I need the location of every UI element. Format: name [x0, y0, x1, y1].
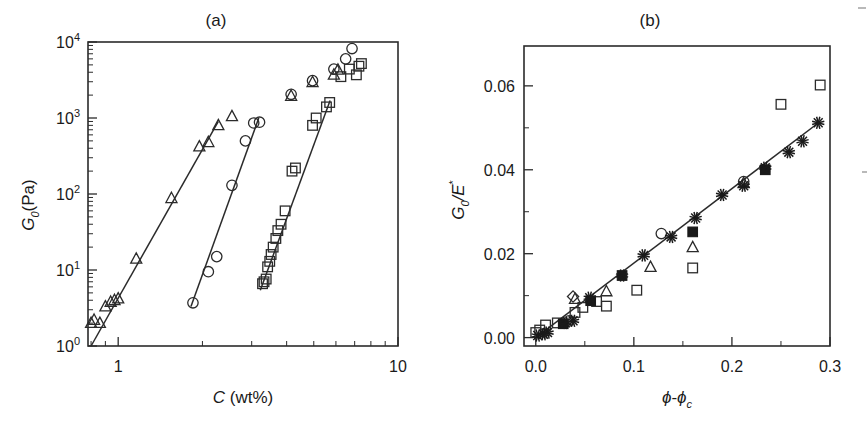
data-point: [688, 263, 698, 273]
data-point: [688, 227, 698, 237]
data-point: [812, 117, 824, 129]
data-point: [227, 180, 237, 190]
data-point: [254, 117, 264, 127]
data-point: [638, 249, 650, 261]
data-point: [716, 189, 728, 201]
panel-a-title: (a): [206, 11, 227, 30]
panel-b-frame: [524, 46, 830, 346]
data-point: [569, 293, 580, 303]
panel-b-data-points: [531, 80, 825, 341]
data-point: [645, 261, 656, 271]
data-point: [656, 228, 666, 238]
panel-a-fit-lines: [91, 100, 330, 346]
panel-a-xlabel: C (wt%): [213, 388, 273, 407]
data-point: [240, 136, 250, 146]
x-tick-label: 10: [389, 358, 407, 375]
panel-a-ylabel: G0(Pa): [19, 179, 41, 230]
y-tick-label: 102: [56, 183, 80, 203]
panel-a-tick-labels: 100101102103104110: [56, 31, 407, 375]
data-point: [665, 231, 677, 243]
data-point: [291, 163, 301, 173]
x-tick-label: 1: [114, 358, 123, 375]
data-point: [308, 121, 318, 131]
panel-a-frame: [88, 42, 398, 346]
panel-b: (b) 0.000.020.040.060.00.10.20.3 G0/E* ϕ…: [434, 0, 867, 423]
data-point: [796, 135, 808, 147]
x-tick-label: 0.2: [721, 358, 743, 375]
data-point: [632, 285, 642, 295]
y-tick-label: 100: [56, 335, 80, 355]
data-point: [687, 241, 698, 251]
data-point: [815, 80, 825, 90]
x-tick-label: 0.1: [623, 358, 645, 375]
panel-b-ylabel: G0/E*: [447, 179, 471, 219]
data-point: [203, 266, 213, 276]
panel-a-svg: (a) 100101102103104110 G0(Pa) C (wt%): [0, 0, 434, 423]
upper-circle-series: [286, 43, 357, 99]
panel-b-ticks: [524, 86, 830, 346]
panel-b-svg: (b) 0.000.020.040.060.00.10.20.3 G0/E* ϕ…: [434, 0, 867, 423]
fit-triangle: [91, 121, 218, 346]
circle-series: [188, 117, 265, 308]
figure-root: (a) 100101102103104110 G0(Pa) C (wt%): [0, 0, 867, 423]
y-tick-label: 0.06: [484, 78, 515, 95]
y-tick-label: 0.04: [484, 162, 515, 179]
panel-a-data-points: [86, 43, 367, 327]
data-point: [287, 166, 297, 176]
x-tick-label: 0.3: [819, 358, 841, 375]
panel-a-ticks: [88, 42, 398, 346]
panel-b-xlabel: ϕ-ϕc: [662, 388, 693, 410]
data-point: [783, 146, 795, 158]
filled-square-series: [558, 165, 770, 329]
data-point: [340, 54, 350, 64]
data-point: [602, 301, 612, 311]
panel-a: (a) 100101102103104110 G0(Pa) C (wt%): [0, 0, 434, 423]
y-tick-label: 103: [56, 107, 80, 127]
data-point: [226, 110, 237, 120]
svg-text:G0(Pa): G0(Pa): [19, 179, 41, 230]
panel-b-tick-labels: 0.000.020.040.060.00.10.20.3: [484, 78, 841, 375]
fit-circle: [191, 118, 259, 307]
panel-b-title: (b): [640, 11, 661, 30]
data-point: [212, 251, 222, 261]
y-tick-label: 104: [56, 31, 80, 51]
y-tick-label: 0.00: [484, 330, 515, 347]
data-point: [311, 113, 321, 123]
y-tick-label: 101: [56, 259, 80, 279]
triangle-series: [86, 110, 238, 327]
x-tick-label: 0.0: [525, 358, 547, 375]
y-tick-label: 0.02: [484, 246, 515, 263]
svg-text:G0/E*: G0/E*: [447, 179, 471, 219]
data-point: [357, 59, 367, 69]
data-point: [776, 100, 786, 110]
data-point: [347, 43, 357, 53]
data-point: [690, 212, 702, 224]
upper-triangle-series: [286, 64, 344, 100]
open-square-series: [531, 80, 825, 337]
